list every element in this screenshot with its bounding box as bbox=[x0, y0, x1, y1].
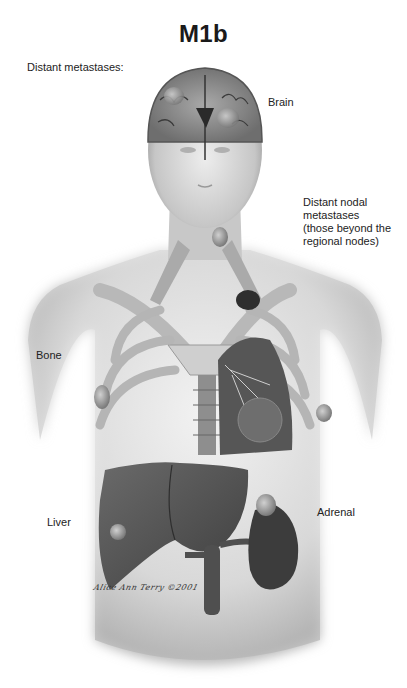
nodal-tumor bbox=[212, 227, 228, 247]
label-distant-nodal-line3: (those beyond the bbox=[303, 222, 391, 235]
label-distant-nodal-line2: metastases bbox=[303, 209, 391, 222]
label-bone: Bone bbox=[36, 349, 62, 362]
brain-tumor-right bbox=[217, 108, 239, 128]
artist-signature: Alice Ann Terry ©2001 bbox=[93, 583, 200, 592]
liver-tumor bbox=[110, 524, 126, 540]
lung-tumor bbox=[238, 398, 282, 442]
label-distant-nodal: Distant nodal metastases (those beyond t… bbox=[303, 196, 391, 248]
label-liver: Liver bbox=[47, 516, 71, 529]
bone-tumor bbox=[94, 385, 110, 409]
skin-nodule bbox=[316, 404, 332, 422]
label-adrenal: Adrenal bbox=[317, 506, 355, 519]
aorta bbox=[204, 545, 220, 615]
body-illustration bbox=[0, 0, 407, 688]
adrenal-tumor bbox=[256, 494, 276, 516]
brain-tumor-left bbox=[164, 87, 184, 105]
label-distant-nodal-line4: regional nodes) bbox=[303, 235, 391, 248]
label-brain: Brain bbox=[268, 96, 294, 109]
head bbox=[148, 68, 262, 228]
label-distant-nodal-line1: Distant nodal bbox=[303, 196, 391, 209]
